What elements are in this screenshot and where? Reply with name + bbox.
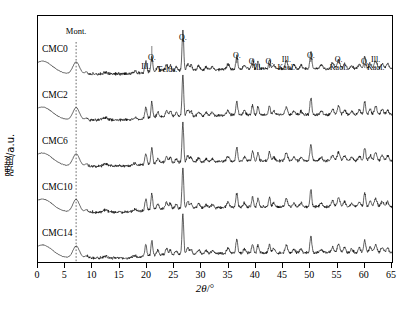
y-axis-label: 强度/a.u. <box>2 95 18 215</box>
peak-label: Q. <box>179 34 187 42</box>
x-tick-label: 25 <box>168 269 178 280</box>
x-tick-label: 0 <box>35 269 40 280</box>
peak-label: Q. <box>307 52 315 60</box>
xrd-traces <box>38 16 392 262</box>
xrd-figure: 强度/a.u. Mont.Ill.Q.Felds.Q.Q.Q.Ill.Q.Ill… <box>0 0 410 312</box>
trace-cmc14 <box>38 214 392 260</box>
peak-label: Ill. Kaol. <box>278 56 296 73</box>
x-tick <box>91 263 92 268</box>
x-axis-symbol: 2θ <box>196 282 207 294</box>
trace-cmc6 <box>38 122 392 168</box>
x-tick-label: 45 <box>277 269 287 280</box>
x-tick <box>309 263 310 268</box>
sample-label-cmc2: CMC2 <box>42 90 68 100</box>
sample-label-cmc6: CMC6 <box>42 136 68 146</box>
peak-label-mont: Mont. <box>66 27 87 35</box>
x-tick-label: 5 <box>62 269 67 280</box>
x-tick-label: 40 <box>250 269 260 280</box>
x-axis-label: 2θ/° <box>0 282 410 294</box>
x-tick <box>173 263 174 268</box>
x-tick-label: 35 <box>223 269 233 280</box>
x-tick-label: 20 <box>141 269 151 280</box>
peak-label: Ill. <box>141 63 150 71</box>
x-tick-label: 15 <box>114 269 124 280</box>
x-tick <box>391 263 392 268</box>
x-tick-label: 60 <box>359 269 369 280</box>
trace-cmc2 <box>38 75 392 122</box>
x-tick <box>228 263 229 268</box>
x-tick-label: 10 <box>86 269 96 280</box>
x-tick-label: 50 <box>304 269 314 280</box>
peak-label: Felds. <box>158 66 177 74</box>
x-axis: 05101520253035404550556065 <box>37 263 393 264</box>
x-tick <box>119 263 120 268</box>
peak-label: Q. Kaol. <box>330 56 348 73</box>
x-tick <box>364 263 365 268</box>
x-tick <box>282 263 283 268</box>
x-tick <box>64 263 65 268</box>
sample-label-cmc14: CMC14 <box>42 228 73 238</box>
sample-label-cmc0: CMC0 <box>42 44 68 54</box>
x-tick <box>255 263 256 268</box>
sample-label-cmc10: CMC10 <box>42 182 73 192</box>
plot-area: Mont.Ill.Q.Felds.Q.Q.Q.Ill.Q.Ill. Kaol.Q… <box>37 15 393 263</box>
x-tick <box>200 263 201 268</box>
x-tick <box>37 263 38 268</box>
peak-label: Q. <box>148 54 156 62</box>
x-tick-label: 30 <box>195 269 205 280</box>
peak-label: Q. <box>233 52 241 60</box>
x-tick-label: 55 <box>332 269 342 280</box>
trace-cmc10 <box>38 168 392 214</box>
x-axis-unit: /° <box>207 282 214 294</box>
peak-label: Q. <box>266 58 274 66</box>
peak-label: Ill. Kaol. <box>367 56 385 73</box>
x-tick-label: 65 <box>386 269 396 280</box>
x-tick <box>337 263 338 268</box>
x-tick <box>146 263 147 268</box>
peak-label: Ill. <box>253 64 262 72</box>
